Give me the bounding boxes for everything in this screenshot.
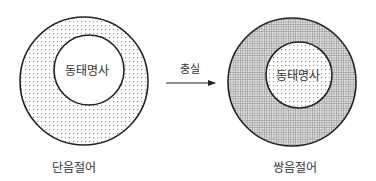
right-inner-label: 동태명사 (276, 69, 320, 83)
left-set-monosyllabic: 동태명사 단음절어 (20, 17, 148, 175)
left-outer-label: 단음절어 (52, 161, 96, 175)
left-inner-label: 동태명사 (65, 64, 109, 78)
right-set-disyllabic: 동태명사 쌍음절어 (228, 18, 356, 175)
transition-arrow: 충실 (166, 63, 215, 83)
diagram-canvas: 동태명사 단음절어 충실 동태명사 쌍음절어 (0, 0, 376, 181)
right-outer-label: 쌍음절어 (273, 161, 317, 175)
arrow-label: 충실 (180, 63, 200, 76)
